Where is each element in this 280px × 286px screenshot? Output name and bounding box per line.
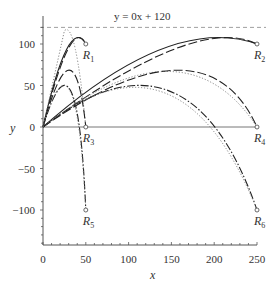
- point-label-R2: R2: [253, 48, 265, 64]
- x-axis-title: x: [149, 268, 156, 282]
- curve-1: [43, 38, 86, 127]
- x-tick-label: 250: [249, 253, 266, 265]
- point-marker-R3: [84, 125, 88, 129]
- curve-8: [43, 38, 257, 127]
- axes: −100−50050100050100150200250: [12, 16, 265, 265]
- y-tick-label: 100: [19, 38, 36, 50]
- point-label-R6: R6: [253, 214, 265, 230]
- endpoint-markers: R1R2R3R4R5R6: [82, 42, 266, 230]
- point-label-R4: R4: [253, 131, 265, 147]
- point-marker-R4: [255, 125, 259, 129]
- point-marker-R6: [255, 208, 259, 212]
- curve-series: [43, 30, 257, 210]
- x-tick-label: 100: [120, 253, 137, 265]
- curve-10: [43, 70, 257, 127]
- x-tick-label: 200: [206, 253, 223, 265]
- x-tick-label: 50: [80, 253, 92, 265]
- x-tick-label: 0: [40, 253, 46, 265]
- curve-2: [43, 38, 86, 127]
- point-marker-R2: [255, 42, 259, 46]
- y-tick-label: −100: [12, 204, 35, 216]
- point-marker-R1: [84, 42, 88, 46]
- point-marker-R5: [84, 208, 88, 212]
- point-label-R5: R5: [82, 214, 94, 230]
- point-label-R3: R3: [82, 131, 94, 147]
- y-tick-label: 0: [30, 121, 36, 133]
- chart: −100−50050100050100150200250 R1R2R3R4R5R…: [0, 0, 280, 286]
- point-label-R1: R1: [82, 48, 94, 64]
- y-tick-label: 50: [24, 80, 36, 92]
- x-tick-label: 150: [163, 253, 180, 265]
- curve-7: [43, 38, 257, 127]
- curve-9: [43, 71, 257, 127]
- reference-line-annotation: y = 0x + 120: [114, 10, 171, 22]
- y-axis-title: y: [9, 121, 16, 135]
- y-tick-label: −50: [18, 163, 36, 175]
